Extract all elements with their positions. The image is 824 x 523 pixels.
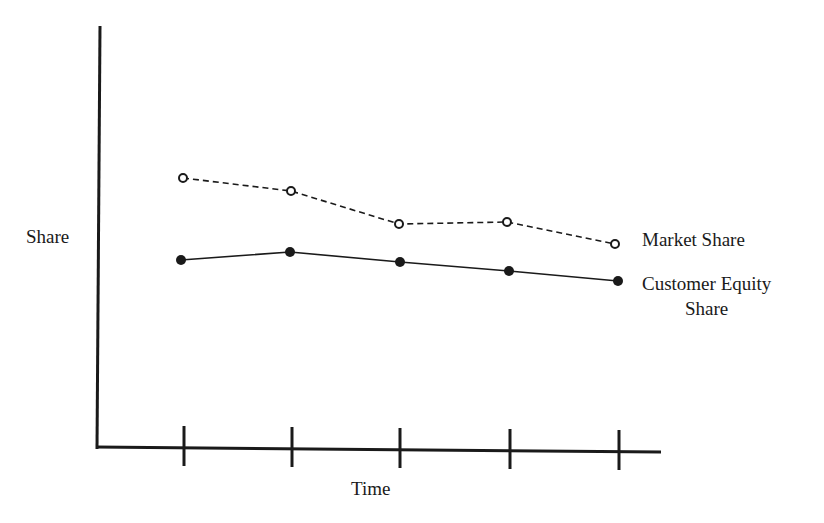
y-axis [97, 26, 100, 449]
legend-customer-equity-line2: Share [642, 296, 771, 321]
market-share-point [611, 240, 619, 248]
market-share-point [287, 187, 295, 195]
customer-equity-point [395, 257, 405, 267]
customer-equity-point [613, 276, 623, 286]
y-axis-label: Share [26, 226, 69, 248]
line-chart [0, 0, 824, 523]
legend-market-share: Market Share [642, 229, 745, 251]
legend-customer-equity-line1: Customer Equity [642, 271, 771, 296]
market-share-point [503, 218, 511, 226]
legend-customer-equity-share: Customer Equity Share [642, 271, 771, 321]
customer-equity-point [285, 247, 295, 257]
x-axis-label: Time [351, 478, 390, 500]
customer-equity-point [504, 266, 514, 276]
series-customer-equity-share [176, 247, 623, 286]
market-share-point [395, 220, 403, 228]
x-axis [96, 447, 661, 452]
market-share-point [179, 174, 187, 182]
customer-equity-point [176, 255, 186, 265]
series-market-share [179, 174, 619, 248]
